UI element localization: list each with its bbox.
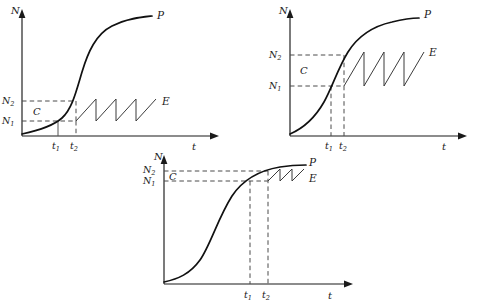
x-axis-arrowhead (458, 133, 467, 140)
y-axis-label: N (278, 5, 289, 16)
curve-label-p: P (308, 156, 317, 168)
x-axis-label: t (442, 141, 447, 152)
panel-1: N t N2 N1 C t1 t2 P E (0, 0, 245, 155)
band-label-c: C (169, 171, 177, 182)
curve-label-e: E (428, 46, 437, 58)
y-axis-label: N (10, 5, 21, 16)
curve-p (164, 165, 306, 282)
panel-2: N t N2 N1 C t1 t2 P E (252, 0, 491, 155)
x-axis-arrowhead (210, 133, 219, 140)
curve-label-e: E (161, 95, 170, 107)
panel-2-plot: N t N2 N1 C t1 t2 P E (252, 0, 491, 155)
panel-1-plot: N t N2 N1 C t1 t2 P E (0, 0, 245, 155)
curve-label-e: E (308, 172, 317, 184)
y-tick-label-n1: N1 (1, 115, 15, 128)
sawtooth-e (344, 52, 424, 86)
x-tick-label-t2: t2 (70, 140, 78, 153)
curve-p (22, 16, 152, 134)
band-label-c: C (300, 65, 308, 76)
y-axis-label: N (153, 151, 164, 162)
panel-3: N t N2 N1 C t1 t2 P E (128, 148, 373, 306)
y-tick-label-n2: N2 (1, 95, 15, 108)
band-label-c: C (33, 106, 41, 117)
curve-label-p: P (156, 9, 165, 21)
x-axis-arrowhead (344, 281, 353, 288)
sawtooth-e (76, 99, 156, 121)
y-tick-label-n2: N2 (268, 49, 282, 62)
x-tick-label-t2: t2 (262, 289, 270, 302)
curve-p (290, 18, 419, 134)
x-tick-label-t1: t1 (244, 289, 252, 302)
x-axis-label: t (328, 290, 333, 301)
panel-3-plot: N t N2 N1 C t1 t2 P E (128, 148, 373, 306)
sawtooth-e (268, 169, 304, 181)
curve-label-p: P (423, 8, 432, 20)
y-tick-label-n1: N1 (268, 80, 282, 93)
x-tick-label-t1: t1 (52, 140, 60, 153)
